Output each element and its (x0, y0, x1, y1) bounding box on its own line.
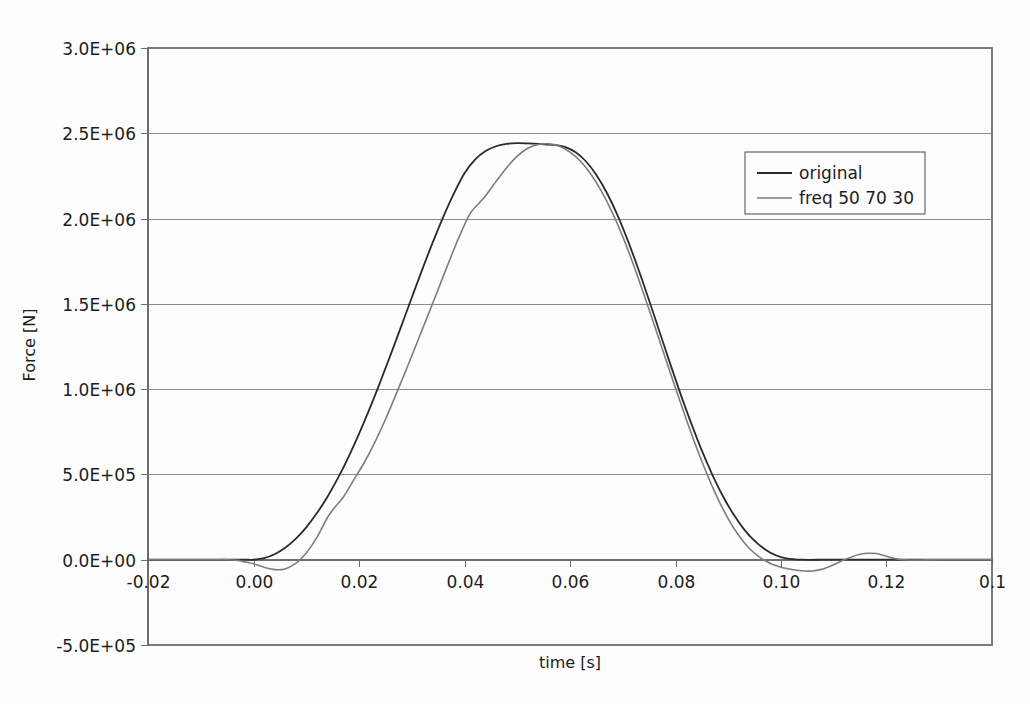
force-time-line-chart: -5.0E+050.0E+005.0E+051.0E+061.5E+062.0E… (0, 0, 1030, 704)
x-tick-label: 0.02 (341, 572, 379, 592)
chart-page: -5.0E+050.0E+005.0E+051.0E+061.5E+062.0E… (0, 0, 1030, 704)
legend-label-original: original (799, 163, 863, 183)
x-tick-label: 0.10 (763, 572, 801, 592)
y-tick-label: 2.0E+06 (62, 210, 136, 230)
y-tick-label: 1.0E+06 (62, 380, 136, 400)
legend-label-filtered: freq 50 70 30 (799, 188, 914, 208)
x-tick-label: 0.08 (658, 572, 696, 592)
x-tick-label: 0.04 (447, 572, 485, 592)
x-tick-label: 0.06 (552, 572, 590, 592)
y-axis-title: Force [N] (20, 309, 39, 382)
y-axis-tickmarks (141, 49, 148, 646)
x-tick-label: 0.00 (236, 572, 274, 592)
y-tick-label: 2.5E+06 (62, 124, 136, 144)
y-tick-label: 5.0E+05 (62, 465, 136, 485)
x-tick-label: -0.02 (127, 572, 171, 592)
x-tick-label: 0.12 (868, 572, 906, 592)
chart-legend: original freq 50 70 30 (745, 152, 925, 214)
plot-area-background (148, 48, 992, 645)
y-tick-label: 1.5E+06 (62, 295, 136, 315)
x-tick-label: 0.1 (979, 572, 1006, 592)
y-axis-tick-labels: -5.0E+050.0E+005.0E+051.0E+061.5E+062.0E… (56, 39, 136, 656)
y-tick-label: 0.0E+00 (62, 551, 136, 571)
y-tick-label: 3.0E+06 (62, 39, 136, 59)
x-axis-tick-labels: -0.020.000.020.040.060.080.100.120.1 (127, 572, 1007, 592)
y-tick-label: -5.0E+05 (56, 636, 136, 656)
x-axis-title: time [s] (539, 653, 601, 672)
